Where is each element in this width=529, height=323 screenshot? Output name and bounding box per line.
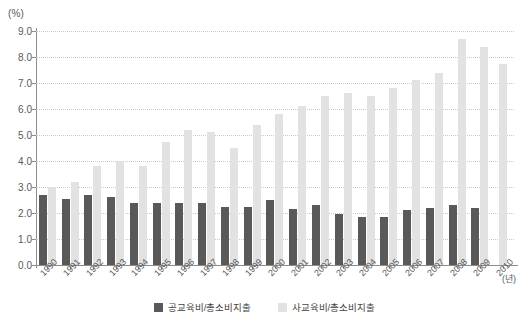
bar-group xyxy=(400,31,423,265)
y-axis-unit-label: (%) xyxy=(8,8,24,19)
chart-legend: 공교육비/총소비지출사교육비/총소비지출 xyxy=(0,300,529,314)
bar xyxy=(449,205,457,265)
bar xyxy=(458,39,466,265)
bar xyxy=(403,210,411,265)
y-tick-label: 5.0 xyxy=(18,130,32,141)
bar-group xyxy=(59,31,82,265)
bar xyxy=(435,73,443,265)
bar xyxy=(480,47,488,265)
bar xyxy=(130,203,138,265)
y-tick-label: 7.0 xyxy=(18,78,32,89)
legend-label: 공교육비/총소비지출 xyxy=(168,300,252,314)
bar xyxy=(321,96,329,265)
bar xyxy=(162,142,170,266)
bar-group xyxy=(309,31,332,265)
legend-swatch-icon xyxy=(154,303,163,312)
bar xyxy=(275,114,283,265)
plot-area xyxy=(36,31,514,265)
bar-group xyxy=(355,31,378,265)
y-tick-label: 4.0 xyxy=(18,156,32,167)
bar-group xyxy=(218,31,241,265)
bar-group xyxy=(241,31,264,265)
bar-group xyxy=(468,31,491,265)
bar xyxy=(71,182,79,265)
bar xyxy=(312,205,320,265)
legend-label: 사교육비/총소비지출 xyxy=(292,300,376,314)
bar xyxy=(184,130,192,265)
bar xyxy=(62,199,70,265)
bar xyxy=(175,203,183,265)
y-tick-label: 2.0 xyxy=(18,208,32,219)
bar xyxy=(48,187,56,265)
y-tick-label: 6.0 xyxy=(18,104,32,115)
y-tick-label: 3.0 xyxy=(18,182,32,193)
bar-group xyxy=(36,31,59,265)
bar-group xyxy=(423,31,446,265)
bar xyxy=(107,197,115,265)
bar-group xyxy=(173,31,196,265)
bar-group xyxy=(332,31,355,265)
bar-group xyxy=(286,31,309,265)
bar-group xyxy=(104,31,127,265)
bar xyxy=(139,166,147,265)
x-axis-unit-label: (년) xyxy=(502,272,516,285)
bar xyxy=(221,207,229,266)
y-tick-label: 9.0 xyxy=(18,26,32,37)
bar-group xyxy=(264,31,287,265)
bar xyxy=(198,203,206,265)
bar xyxy=(153,203,161,265)
bar xyxy=(230,148,238,265)
legend-swatch-icon xyxy=(278,303,287,312)
y-tick-label: 8.0 xyxy=(18,52,32,63)
bar xyxy=(367,96,375,265)
legend-item[interactable]: 사교육비/총소비지출 xyxy=(278,300,376,314)
y-tick-label: 0.0 xyxy=(18,260,32,271)
bar-group xyxy=(150,31,173,265)
bar-group xyxy=(377,31,400,265)
bar xyxy=(426,208,434,265)
bar xyxy=(84,195,92,265)
y-axis-tick-labels: 9.08.07.06.05.04.03.02.01.00.0 xyxy=(0,31,32,265)
bar xyxy=(244,207,252,266)
bar xyxy=(266,200,274,265)
bar xyxy=(471,208,479,265)
bar xyxy=(298,106,306,265)
bar-groups xyxy=(36,31,514,265)
y-tick-label: 1.0 xyxy=(18,234,32,245)
bar xyxy=(93,166,101,265)
bar xyxy=(412,80,420,265)
bar xyxy=(344,93,352,265)
bar xyxy=(499,64,507,266)
bar xyxy=(335,214,343,265)
bar-group xyxy=(446,31,469,265)
bar xyxy=(39,195,47,265)
bar xyxy=(358,217,366,265)
bar-group xyxy=(127,31,150,265)
bar xyxy=(207,132,215,265)
bar xyxy=(289,209,297,265)
bar xyxy=(380,217,388,265)
bar xyxy=(253,125,261,265)
bar xyxy=(116,161,124,265)
bar-group xyxy=(195,31,218,265)
bar-group xyxy=(82,31,105,265)
bar-group xyxy=(491,31,514,265)
bar xyxy=(389,88,397,265)
legend-item[interactable]: 공교육비/총소비지출 xyxy=(154,300,252,314)
bar-chart: (%) 9.08.07.06.05.04.03.02.01.00.0 19901… xyxy=(0,0,529,323)
